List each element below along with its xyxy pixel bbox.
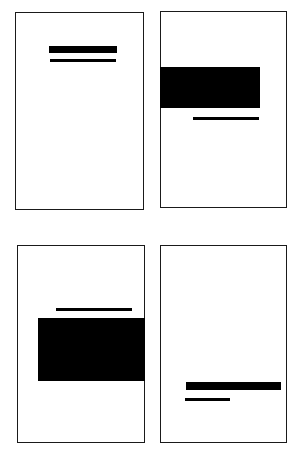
thin-rule bbox=[185, 398, 230, 401]
thin-rule bbox=[193, 117, 259, 120]
page-panel-top-left bbox=[15, 12, 144, 210]
thick-bar bbox=[186, 382, 281, 390]
block bbox=[160, 67, 260, 108]
block bbox=[38, 318, 145, 381]
page-panel-bottom-right bbox=[160, 245, 287, 443]
thick-bar bbox=[49, 46, 117, 53]
page-panel-top-right bbox=[160, 11, 287, 208]
thin-rule bbox=[50, 59, 116, 62]
thin-rule bbox=[56, 308, 132, 311]
